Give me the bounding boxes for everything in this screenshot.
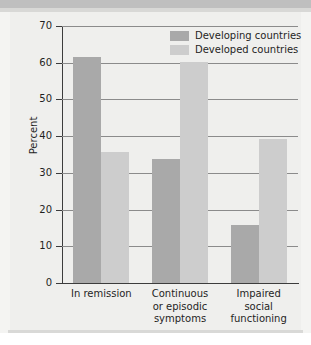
category-label-2: Continuousor episodicsymptoms [135, 288, 225, 326]
y-tick-label-0: 0 [10, 278, 52, 288]
x-axis-line [62, 283, 299, 284]
category-label-2-line-1: Continuous [135, 288, 225, 301]
bar-developing-group-3 [231, 225, 259, 283]
y-tick-label-50: 50 [10, 94, 52, 104]
category-label-3-line-3: functioning [214, 313, 304, 326]
category-label-3-line-2: social [214, 301, 304, 314]
y-tick-0 [56, 283, 62, 284]
legend-item-developed: Developed countries [170, 44, 301, 55]
y-tick-label-30: 30 [10, 168, 52, 178]
page-bottom-band [0, 333, 311, 345]
category-label-3: Impairedsocialfunctioning [214, 288, 304, 326]
plot-area [62, 26, 298, 283]
y-tick-label-40: 40 [10, 131, 52, 141]
chart-legend: Developing countries Developed countries [170, 30, 301, 58]
y-tick-label-60: 60 [10, 58, 52, 68]
legend-label-developed: Developed countries [195, 44, 298, 55]
category-label-2-line-2: or episodic [135, 301, 225, 314]
legend-swatch-developing-icon [170, 31, 189, 41]
bar-developed-group-3 [259, 139, 287, 283]
legend-label-developing: Developing countries [195, 30, 301, 41]
category-label-2-line-3: symptoms [135, 313, 225, 326]
page-top-band [0, 0, 311, 8]
y-tick-label-70: 70 [10, 21, 52, 31]
scanned-page: Percent 706050403020100 Developing count… [0, 0, 311, 345]
category-label-1-line-1: In remission [56, 288, 146, 301]
bar-developed-group-1 [101, 152, 129, 283]
bar-developed-group-2 [180, 62, 208, 283]
category-label-1: In remission [56, 288, 146, 301]
y-tick-label-20: 20 [10, 205, 52, 215]
bar-developing-group-2 [152, 159, 180, 283]
legend-item-developing: Developing countries [170, 30, 301, 41]
legend-swatch-developed-icon [170, 45, 189, 55]
y-tick-label-10: 10 [10, 241, 52, 251]
chart-figure: Percent 706050403020100 Developing count… [10, 12, 301, 330]
bar-developing-group-1 [73, 57, 101, 283]
category-label-3-line-1: Impaired [214, 288, 304, 301]
